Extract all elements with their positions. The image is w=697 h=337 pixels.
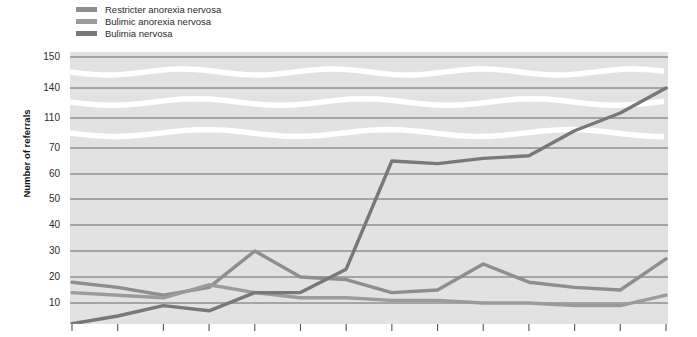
- axis-break-bands: [70, 69, 664, 136]
- axis-break-band: [70, 69, 664, 75]
- y-axis-tick-label: 150: [26, 52, 60, 62]
- legend-swatch-bulimic-anorexia-nervosa: [76, 19, 97, 24]
- y-axis-tick-label: 10: [26, 298, 60, 308]
- y-axis-tick-label: 70: [26, 143, 60, 153]
- gridlines: [70, 57, 668, 303]
- legend-label-bulimic-anorexia-nervosa: Bulimic anorexia nervosa: [105, 16, 211, 27]
- y-axis-tick-label: 40: [26, 220, 60, 230]
- legend-swatch-bulimia-nervosa: [76, 31, 97, 36]
- legend-item: Restricter anorexia nervosa: [76, 4, 336, 15]
- y-axis-tick-label: 60: [26, 169, 60, 179]
- x-axis-ticks: [72, 324, 666, 331]
- y-axis-tick-label: 140: [26, 83, 60, 93]
- data-series-lines: [72, 88, 666, 324]
- plot-area: [70, 52, 668, 324]
- series-line-restricter-anorexia-nervosa: [72, 251, 666, 295]
- chart-legend: Restricter anorexia nervosa Bulimic anor…: [76, 4, 336, 40]
- y-axis-tick-label: 110: [26, 113, 60, 123]
- chart-canvas: [70, 52, 668, 324]
- y-axis-tick-label: 30: [26, 246, 60, 256]
- y-axis-tick-label: 20: [26, 272, 60, 282]
- y-axis-tick-label: 50: [26, 194, 60, 204]
- legend-label-bulimia-nervosa: Bulimia nervosa: [105, 28, 173, 39]
- legend-label-restricter-anorexia-nervosa: Restricter anorexia nervosa: [105, 4, 221, 15]
- legend-item: Bulimia nervosa: [76, 28, 336, 39]
- chart-figure: Restricter anorexia nervosa Bulimic anor…: [0, 0, 697, 337]
- legend-swatch-restricter-anorexia-nervosa: [76, 7, 97, 12]
- axis-break-band: [70, 99, 664, 105]
- legend-item: Bulimic anorexia nervosa: [76, 16, 336, 27]
- x-axis: [70, 324, 668, 337]
